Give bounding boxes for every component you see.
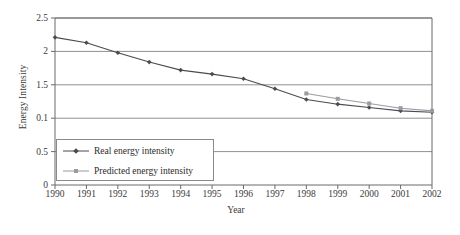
data-point-marker: [335, 102, 340, 107]
data-point-marker: [336, 97, 340, 101]
data-point-marker: [241, 76, 246, 81]
legend-item-real: Real energy intensity: [63, 141, 175, 161]
plot-area: [0, 0, 460, 235]
legend-swatch-real-icon: [63, 146, 89, 156]
data-point-marker: [178, 68, 183, 73]
data-point-marker: [304, 97, 309, 102]
legend-label-predicted: Predicted energy intensity: [94, 166, 193, 176]
legend-item-predicted: Predicted energy intensity: [63, 161, 193, 181]
data-point-marker: [147, 60, 152, 65]
data-point-marker: [430, 109, 434, 113]
energy-intensity-chart: Energy Intensity Year 2.521.50.10.50 199…: [0, 0, 460, 235]
data-point-marker: [273, 87, 278, 92]
data-point-marker: [304, 91, 308, 95]
data-point-marker: [399, 106, 403, 110]
legend-label-real: Real energy intensity: [94, 146, 175, 156]
chart-legend: Real energy intensity Predicted energy i…: [56, 139, 214, 181]
data-point-marker: [367, 102, 371, 106]
data-point-marker: [210, 72, 215, 77]
series-line-real: [55, 37, 432, 112]
data-point-marker: [53, 35, 58, 40]
data-point-marker: [84, 40, 89, 45]
legend-swatch-predicted-icon: [63, 166, 89, 176]
data-point-marker: [367, 105, 372, 110]
